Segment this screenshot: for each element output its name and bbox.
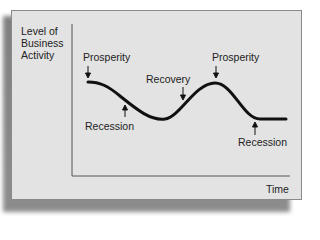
- business-cycle-curve: [88, 82, 286, 119]
- y-axis-label-line: Activity: [21, 49, 64, 61]
- arrow-down-icon: [181, 87, 186, 100]
- arrow-up-icon: [123, 105, 128, 117]
- arrow-down-icon: [214, 66, 219, 78]
- y-axis-label: Level of Business Activity: [21, 25, 64, 61]
- y-axis-label-line: Business: [21, 37, 64, 49]
- y-axis-label-line: Level of: [21, 25, 64, 37]
- phase-label-prosperity: Prosperity: [83, 51, 130, 63]
- x-axis-label: Time: [266, 183, 289, 195]
- phase-label-prosperity: Prosperity: [212, 51, 259, 63]
- phase-label-recovery: Recovery: [146, 73, 190, 85]
- phase-label-recession: Recession: [238, 136, 287, 148]
- arrow-up-icon: [253, 122, 258, 135]
- phase-label-recession: Recession: [85, 120, 134, 132]
- arrow-down-icon: [86, 66, 91, 78]
